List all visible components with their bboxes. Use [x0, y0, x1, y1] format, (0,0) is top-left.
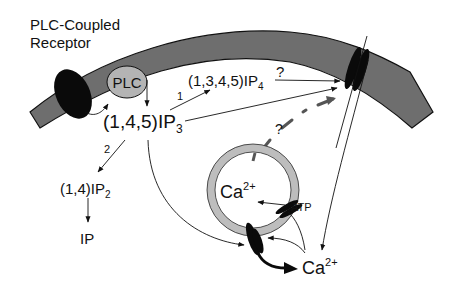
store-dash	[253, 153, 255, 161]
pathway-1-label: 1	[177, 90, 183, 102]
ip4-question-mark: ?	[276, 63, 284, 80]
plc-label: PLC	[112, 74, 141, 91]
store-release-arrow	[258, 253, 286, 268]
receptor-label-line1: PLC-Coupled	[30, 16, 120, 33]
receptor-label-line2: Receptor	[30, 34, 91, 51]
store-release-arrowhead	[284, 262, 298, 274]
ip3-to-ip4-arrow	[170, 90, 210, 110]
store-ca-label: Ca2+	[220, 180, 256, 202]
dashed-arrowhead	[326, 96, 336, 105]
ip3-to-channel-arrow	[185, 88, 337, 121]
ip-label: IP	[80, 230, 94, 247]
store-to-channel-dashed-arrow	[262, 99, 333, 150]
store-question-mark: ?	[275, 121, 283, 137]
cytosol-to-pump-curve	[288, 212, 305, 250]
diagram-canvas: PLC PLC-Coupled Receptor (1,4,5)IP3 1 (1…	[0, 0, 468, 286]
ip4-label: (1,3,4,5)IP4	[188, 72, 264, 92]
cytosolic-ca-label: Ca2+	[302, 256, 338, 278]
atp-label: ATP	[291, 201, 312, 213]
ip4-to-channel-arrow	[275, 80, 340, 81]
pump-into-store-arrow	[258, 202, 285, 205]
pathway-2-label: 2	[104, 143, 110, 155]
ip3-label: (1,4,5)IP3	[103, 111, 183, 136]
ip3-to-ip2-arrow	[98, 140, 125, 172]
ip2-label: (1,4)IP2	[60, 180, 111, 200]
cytosol-ca-feedback-arrow	[268, 238, 305, 253]
